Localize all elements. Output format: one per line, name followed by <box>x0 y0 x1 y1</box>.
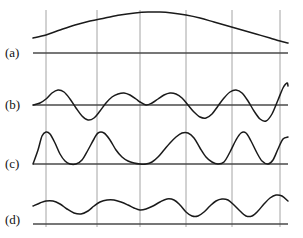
panel-label-a: (a) <box>5 45 19 61</box>
curve-group <box>33 12 288 217</box>
waveform-curve-a <box>33 12 288 43</box>
gridline-group <box>46 10 280 227</box>
panel-label-b: (b) <box>5 97 20 113</box>
waveform-figure: (a) (b) (c) (d) <box>0 0 303 238</box>
waveform-curve-b <box>33 83 288 121</box>
waveform-curve-c <box>33 132 288 165</box>
waveform-curve-d <box>33 195 288 217</box>
plot-canvas <box>0 0 303 238</box>
panel-label-d: (d) <box>5 212 20 228</box>
panel-label-c: (c) <box>5 156 19 172</box>
